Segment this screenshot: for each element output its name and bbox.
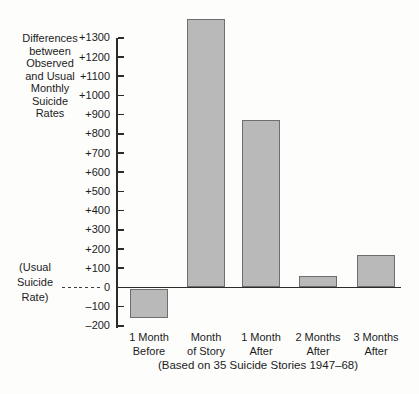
y-tick-label: +200: [40, 243, 110, 256]
y-tick-mark: [118, 56, 124, 58]
y-tick-label: +100: [40, 262, 110, 275]
y-tick-label: –100: [40, 300, 110, 313]
y-tick-label: +700: [40, 147, 110, 160]
y-tick-label: +400: [40, 204, 110, 217]
y-tick-label: +1000: [40, 89, 110, 102]
bar-3-months-after: [357, 255, 395, 288]
y-tick-label: +300: [40, 223, 110, 236]
y-tick-mark: [118, 229, 124, 231]
y-tick-mark: [118, 171, 124, 173]
y-tick-label: +500: [40, 185, 110, 198]
x-axis-label-3-months-after: 3 Months After: [339, 330, 413, 358]
y-tick-mark: [118, 37, 124, 39]
y-tick-mark: [118, 267, 124, 269]
y-tick-label: +600: [40, 166, 110, 179]
y-tick-label: +1300: [40, 31, 110, 44]
y-tick-mark: [118, 75, 124, 77]
y-tick-label: +1100: [40, 70, 110, 83]
bar-1-month-before: [130, 289, 168, 318]
y-tick-mark: [118, 152, 124, 154]
y-tick-mark: [118, 306, 124, 308]
y-axis-line: [116, 38, 118, 328]
y-tick-mark: [118, 248, 124, 250]
y-tick-mark: [118, 325, 124, 327]
bar-month-of-story: [187, 19, 225, 288]
y-tick-label: 0: [40, 281, 110, 294]
bar-1-month-after: [242, 120, 280, 287]
y-tick-mark: [118, 133, 124, 135]
y-tick-label: –200: [40, 319, 110, 332]
y-tick-mark: [118, 191, 124, 193]
y-tick-mark: [118, 114, 124, 116]
bar-2-months-after: [299, 276, 337, 288]
y-tick-label: +800: [40, 127, 110, 140]
y-tick-label: +1200: [40, 51, 110, 64]
suicide-rate-bar-chart: Differences between Observed and Usual M…: [0, 0, 419, 394]
y-tick-mark: [118, 95, 124, 97]
y-tick-label: +900: [40, 108, 110, 121]
chart-caption: (Based on 35 Suicide Stories 1947–68): [108, 359, 408, 371]
y-tick-mark: [118, 210, 124, 212]
